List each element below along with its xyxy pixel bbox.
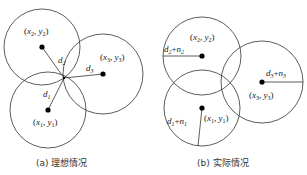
- anchor-node-1: [199, 105, 204, 110]
- radius-label-b2: d2+n2: [164, 44, 184, 55]
- anchor-node-2: [199, 53, 204, 58]
- radius-line-1: [198, 108, 202, 146]
- trilateration-diagram: (x2, y2) (x3, y3) (x1, y1) d2 d3 d1 (a) …: [0, 0, 307, 175]
- caption-a: (a) 理想情况: [36, 157, 87, 168]
- panel-b-nodes: [199, 53, 264, 110]
- anchor-node-3: [259, 79, 264, 84]
- distance-line-d3: [64, 74, 103, 78]
- coord-label-a3: (x3, y3): [100, 52, 125, 63]
- anchor-node-2: [39, 44, 44, 49]
- unknown-node: [63, 77, 65, 79]
- coord-label-a2: (x2, y2): [24, 26, 49, 37]
- distance-label-d3: d3: [86, 63, 94, 74]
- distance-label-d2: d2: [58, 55, 66, 66]
- coord-label-b1: (x1, y1): [204, 113, 229, 124]
- panel-a-nodes: [39, 44, 105, 112]
- anchor-node-1: [45, 107, 50, 112]
- distance-label-d1: d1: [43, 89, 51, 100]
- coord-label-b2: (x2, y2): [190, 32, 215, 43]
- anchor-node-3: [100, 71, 105, 76]
- caption-b: (b) 实际情况: [197, 157, 249, 168]
- coord-label-b3: (x3, y3): [249, 90, 274, 101]
- coord-label-a1: (x1, y1): [33, 117, 58, 128]
- radius-label-b3: d3+n3: [266, 68, 286, 79]
- radius-label-b1: d1+n1: [167, 116, 187, 127]
